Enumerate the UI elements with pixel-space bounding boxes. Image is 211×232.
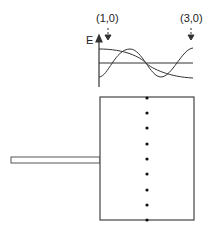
diagram-canvas (0, 0, 211, 232)
y-axis (96, 35, 102, 87)
marker-arrow-left (105, 28, 111, 40)
rod (11, 157, 100, 163)
marker-arrow-right (188, 28, 194, 40)
